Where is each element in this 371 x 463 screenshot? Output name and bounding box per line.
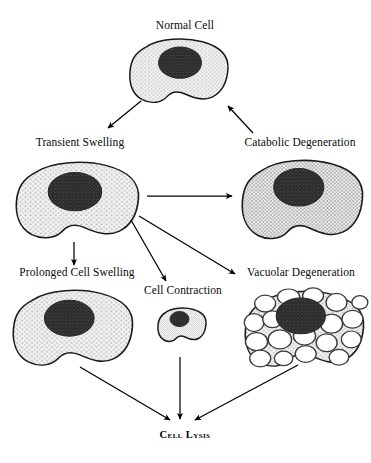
label-vacuolar-degeneration: Vacuolar Degeneration xyxy=(247,267,355,279)
label-prolonged-cell-swelling: Prolonged Cell Swelling xyxy=(19,267,134,279)
cell-contraction xyxy=(158,308,206,341)
nucleus xyxy=(274,169,324,206)
nucleus xyxy=(159,47,202,78)
arrow-transient-to-vacuolar xyxy=(139,216,235,274)
cell-normal xyxy=(130,39,228,102)
cell-vacuolar-degeneration xyxy=(244,288,368,367)
label-transient-swelling: Transient Swelling xyxy=(36,137,125,149)
nucleus xyxy=(276,298,325,334)
diagram-canvas: Normal Cell Transient Swelling Catabolic… xyxy=(0,0,371,463)
arrow-prolonged-to-lysis xyxy=(80,367,170,420)
label-cell-contraction: Cell Contraction xyxy=(144,285,222,297)
arrow-normal-to-transient xyxy=(108,101,141,128)
diagram-svg xyxy=(0,0,371,463)
nucleus xyxy=(170,312,189,327)
cell-prolonged-swelling xyxy=(13,290,132,365)
nucleus xyxy=(48,172,101,210)
cell-catabolic-degeneration xyxy=(242,160,362,238)
label-catabolic-degeneration: Catabolic Degeneration xyxy=(244,137,355,149)
label-cell-lysis: Cell Lysis xyxy=(160,429,211,440)
arrow-catabolic-to-normal xyxy=(228,106,253,133)
cell-transient-swelling xyxy=(16,162,138,237)
label-normal-cell: Normal Cell xyxy=(156,20,214,32)
nucleus xyxy=(44,300,94,336)
arrow-vacuolar-to-lysis xyxy=(195,365,298,420)
